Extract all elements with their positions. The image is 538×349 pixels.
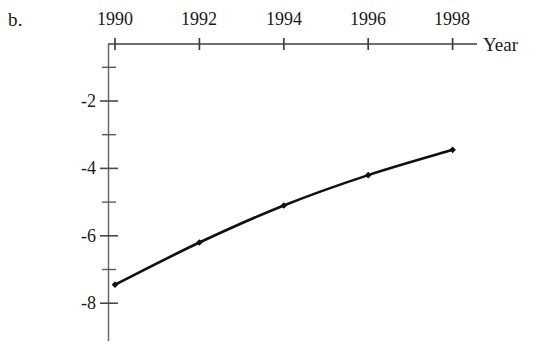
plot-area xyxy=(0,0,538,349)
data-series-line xyxy=(115,150,453,285)
chart-figure: b. 1990 1992 1994 1996 1998 Year -2 -4 -… xyxy=(0,0,538,349)
data-point-markers xyxy=(112,147,456,288)
